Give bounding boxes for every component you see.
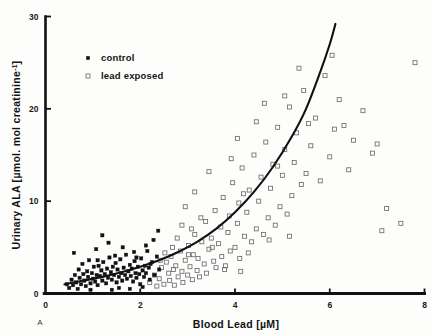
data-point	[190, 278, 194, 282]
data-point	[287, 234, 291, 238]
data-point	[81, 262, 84, 265]
data-point	[158, 268, 161, 271]
data-point	[87, 259, 90, 262]
data-point	[273, 223, 277, 227]
chart-legend: controllead exposed	[86, 52, 164, 81]
data-point	[276, 164, 280, 168]
data-point	[138, 272, 141, 275]
data-point	[302, 88, 306, 92]
data-point	[193, 232, 197, 236]
data-point	[183, 258, 187, 262]
data-point	[111, 265, 114, 268]
panel-label: A	[37, 318, 43, 327]
data-point	[246, 251, 250, 255]
y-axis-label: Urinary ALA [µmol. mol creatinine-1]	[10, 61, 22, 250]
figure-panel: 02468 0102030 controllead exposed Blood …	[0, 0, 431, 336]
data-point	[108, 256, 111, 259]
x-tick-label: 8	[422, 300, 427, 310]
data-point	[385, 207, 389, 211]
data-point	[86, 270, 89, 273]
data-point	[220, 255, 224, 259]
data-point	[86, 275, 89, 278]
data-point	[207, 170, 211, 174]
data-point	[290, 194, 294, 198]
x-tick-label: 4	[233, 300, 238, 310]
data-point	[141, 269, 144, 272]
data-point	[195, 268, 199, 272]
data-point	[132, 250, 135, 253]
data-point	[370, 151, 374, 155]
data-point	[197, 275, 201, 279]
data-point	[109, 271, 112, 274]
y-tick-label: 0	[34, 289, 39, 299]
data-point	[205, 271, 209, 275]
data-point	[94, 280, 97, 283]
data-point	[101, 234, 104, 237]
data-point	[240, 166, 244, 170]
data-point	[129, 274, 132, 277]
data-point	[399, 221, 403, 225]
x-tick-labels: 02468	[43, 300, 427, 310]
data-point	[332, 127, 336, 131]
data-point	[84, 284, 87, 287]
data-point	[351, 138, 355, 142]
data-point	[96, 284, 99, 287]
data-point	[163, 251, 167, 255]
data-point	[180, 223, 184, 227]
data-point	[235, 221, 239, 225]
data-point	[276, 125, 280, 129]
data-point	[309, 144, 313, 148]
data-point	[254, 227, 258, 231]
data-point	[238, 256, 242, 260]
data-point	[330, 53, 334, 57]
x-axis-label: Blood Lead [µM]	[193, 318, 279, 330]
data-point	[189, 227, 193, 231]
data-point	[146, 249, 149, 252]
data-point	[175, 236, 179, 240]
data-point	[247, 188, 251, 192]
data-point	[113, 254, 116, 257]
data-point	[140, 257, 143, 260]
x-tick-label: 6	[327, 300, 332, 310]
data-point	[318, 179, 322, 183]
data-point	[155, 284, 159, 288]
data-point	[70, 278, 73, 281]
data-point	[76, 287, 79, 290]
data-point	[96, 259, 99, 262]
data-point	[100, 269, 103, 272]
data-point	[347, 168, 351, 172]
data-point	[269, 186, 273, 190]
data-point	[155, 255, 158, 258]
y-tick-label: 30	[29, 12, 39, 22]
data-point	[101, 279, 104, 282]
data-point	[181, 280, 185, 284]
data-point	[157, 229, 160, 232]
data-point	[147, 266, 150, 269]
data-point	[283, 94, 287, 98]
data-point	[167, 271, 171, 275]
data-point	[110, 278, 113, 281]
data-point	[164, 260, 168, 264]
x-tick-label: 2	[138, 300, 143, 310]
data-point	[264, 140, 268, 144]
data-point	[97, 264, 100, 267]
data-point	[188, 265, 192, 269]
data-point	[245, 210, 249, 214]
data-point	[116, 268, 119, 271]
data-point	[89, 288, 92, 291]
data-point	[170, 245, 174, 249]
data-point	[242, 192, 246, 196]
data-point	[267, 238, 271, 242]
data-point	[202, 262, 206, 266]
data-point	[90, 272, 93, 275]
data-point	[124, 253, 127, 256]
data-point	[135, 276, 138, 279]
data-point	[287, 105, 291, 109]
data-point	[306, 122, 310, 126]
data-point	[172, 283, 176, 287]
data-point	[144, 244, 147, 247]
data-point	[114, 261, 117, 264]
data-point	[117, 286, 120, 289]
data-point	[134, 272, 137, 275]
data-point	[78, 276, 81, 279]
